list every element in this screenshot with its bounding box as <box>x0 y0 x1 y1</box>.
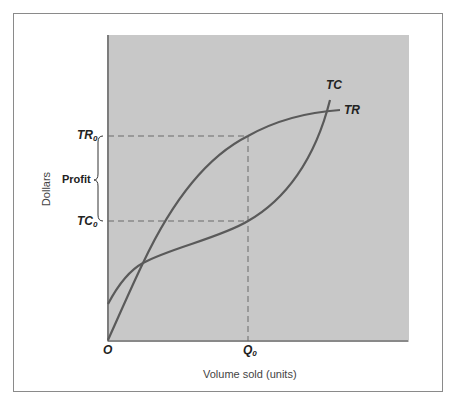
origin-label: O <box>103 343 112 357</box>
tr0-label: TR0 <box>77 128 97 143</box>
profit-label: Profit <box>62 173 91 185</box>
tc0-label: TC0 <box>77 214 97 229</box>
tc-curve-label: TC <box>326 78 342 92</box>
tr-curve-label: TR <box>344 103 360 117</box>
y-axis-label: Dollars <box>40 159 52 219</box>
chart-plot <box>0 0 459 410</box>
x-axis-label: Volume sold (units) <box>203 368 297 380</box>
profit-brace <box>94 136 103 221</box>
q0-label: Q0 <box>243 343 257 358</box>
plot-background <box>107 35 409 342</box>
